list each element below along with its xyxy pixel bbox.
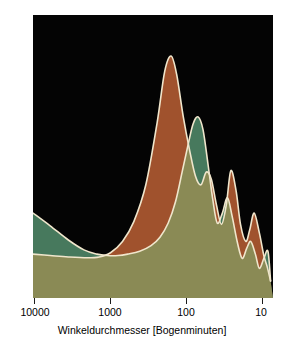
x-tick-mark-100 bbox=[186, 298, 187, 304]
chart-figure: Abweichung von der Durchschnittstemperat… bbox=[0, 0, 284, 348]
x-tick-label-10: 10 bbox=[255, 306, 267, 318]
x-tick-mark-1000 bbox=[110, 298, 111, 304]
plot-area bbox=[33, 15, 273, 298]
x-tick-label-1000: 1000 bbox=[98, 306, 121, 318]
x-axis-title: Winkeldurchmesser [Bogenminuten] bbox=[0, 324, 284, 336]
x-tick-label-100: 100 bbox=[177, 306, 195, 318]
x-tick-mark-10000 bbox=[34, 298, 35, 304]
x-tick-mark-10 bbox=[262, 298, 263, 304]
chart-svg bbox=[33, 15, 273, 298]
x-tick-label-10000: 10000 bbox=[20, 306, 49, 318]
